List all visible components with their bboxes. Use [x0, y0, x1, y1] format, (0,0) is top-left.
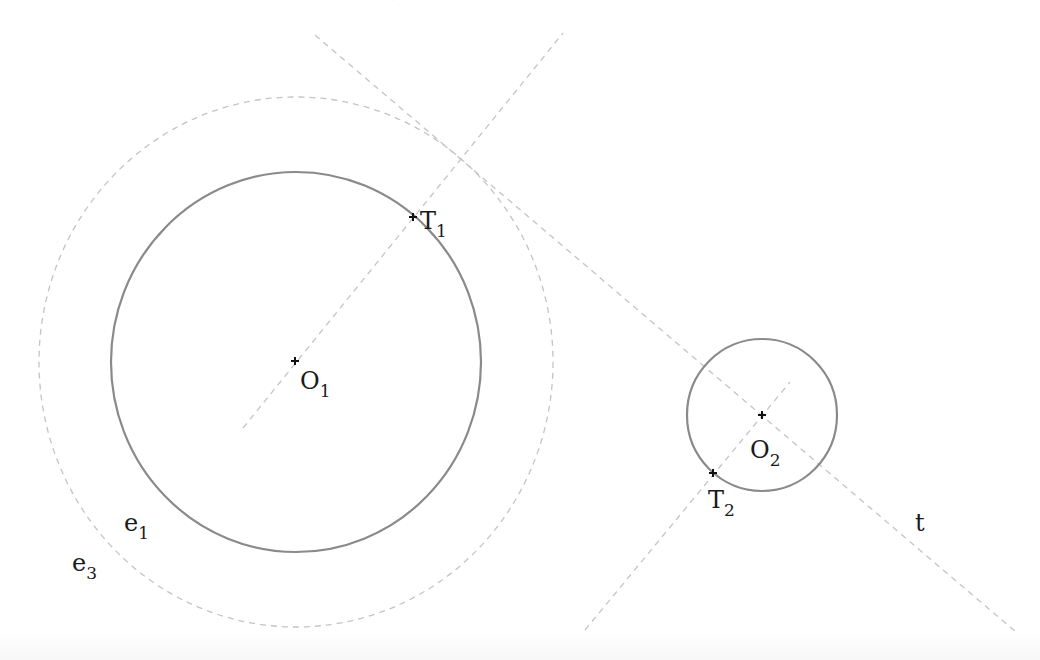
label-t: t — [915, 509, 925, 537]
point-o1-cross-icon — [291, 357, 299, 365]
label-e3: e3 — [72, 549, 97, 583]
geometry-figure: T1 O1 O2 T2 e1 e3 t — [0, 0, 1040, 660]
radius-line-o1-t1 — [243, 33, 563, 428]
tangent-line-t — [315, 35, 1016, 632]
background-bleed — [0, 630, 1040, 660]
label-e1: e1 — [124, 509, 149, 543]
point-t1-cross-icon — [409, 213, 417, 221]
label-o1: O1 — [300, 367, 331, 401]
label-t2: T2 — [708, 486, 735, 520]
point-o2-cross-icon — [758, 411, 766, 419]
label-o2: O2 — [750, 436, 781, 470]
